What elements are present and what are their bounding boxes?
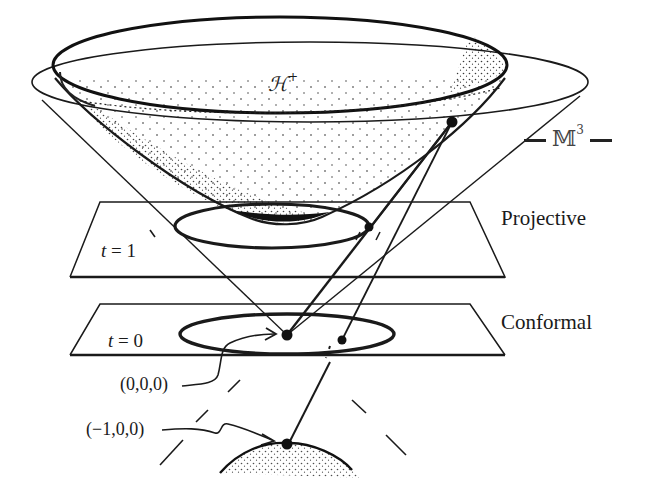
projective-point xyxy=(365,223,374,232)
upper-hyperboloid-sheet xyxy=(53,17,507,224)
conformal-label: Conformal xyxy=(501,312,592,333)
conformal-point xyxy=(338,336,347,345)
dash-left xyxy=(524,139,546,142)
dash-right xyxy=(590,139,612,142)
south-pole-point xyxy=(282,439,293,450)
t-equals-0-label: t = 0 xyxy=(108,331,143,350)
south-pole-coordinate-label: (−1,0,0) xyxy=(86,420,144,438)
annotation-arrows xyxy=(162,328,276,445)
lower-hyperboloid-sheet xyxy=(220,443,362,478)
origin-point xyxy=(282,330,293,341)
minkowski-space-label: 𝕄3 xyxy=(518,128,618,150)
origin-coordinate-label: (0,0,0) xyxy=(120,375,168,393)
hyperboloid-label: ℋ+ xyxy=(268,73,298,94)
hyperboloid-point xyxy=(447,117,458,128)
projective-label: Projective xyxy=(501,208,586,229)
hyperboloid-diagram: ℋ+ 𝕄3 Projective Conformal t = 1 t = 0 (… xyxy=(0,0,647,498)
t-equals-1-label: t = 1 xyxy=(101,241,136,260)
